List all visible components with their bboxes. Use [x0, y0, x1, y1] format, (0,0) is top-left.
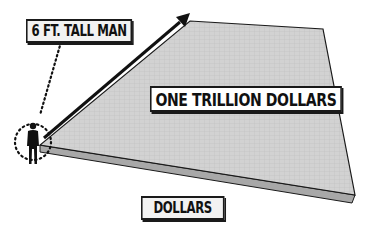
legend-label: DOLLARS [141, 196, 224, 220]
person-silhouette-icon [27, 123, 39, 164]
leader-line [40, 42, 61, 115]
man-label: 6 FT. TALL MAN [26, 19, 132, 43]
slab-label: ONE TRILLION DOLLARS [150, 86, 342, 112]
